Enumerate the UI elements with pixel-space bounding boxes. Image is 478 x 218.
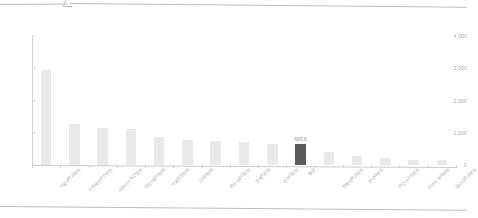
bar[interactable]: [352, 156, 363, 165]
bar[interactable]: [267, 144, 278, 165]
x-axis-category-label: 경희대학교병원: [342, 168, 365, 191]
x-axis-category-label: 울산대학교병원: [455, 168, 478, 191]
x-axis-category-label: 삼성서울대병원: [144, 168, 167, 191]
bar-series: 665.8: [32, 36, 456, 165]
divider-top-main: [70, 3, 467, 8]
x-axis-tick-mark: [456, 165, 457, 168]
bar[interactable]: [380, 158, 391, 165]
bar-chart: 01,0002,0003,0004,000 665.8 서울대학교병원신촌세브란…: [0, 14, 467, 200]
bar[interactable]: [126, 129, 137, 165]
x-axis-label-group: 서울대학교병원신촌세브란스병원서울아산 재단병원삼성서울대병원서울성모병원고려대…: [32, 168, 456, 214]
bar[interactable]: [154, 137, 165, 165]
bar[interactable]: [324, 152, 335, 165]
bar[interactable]: [182, 140, 193, 165]
x-axis-category-label: 서울대학교병원: [59, 168, 82, 191]
divider-top-left: [0, 4, 68, 5]
bar[interactable]: [408, 160, 419, 165]
y-axis-tick-label: 0: [464, 162, 467, 168]
bar-value-label: 665.8: [294, 136, 307, 142]
x-axis-category-label: 인하대 부속병원: [427, 168, 451, 192]
bar[interactable]: [97, 128, 108, 165]
bar[interactable]: [41, 70, 52, 165]
x-axis-category-label: 분당서울대병원: [229, 168, 252, 191]
bar[interactable]: [210, 141, 221, 166]
x-axis-category-label: 한양대구리병원: [398, 168, 421, 191]
x-axis-category-label: 신촌세브란스병원: [89, 168, 114, 193]
x-axis-category-label: 고려대병원: [198, 168, 215, 185]
x-axis-category-label: 연세의료원: [255, 168, 272, 185]
bar[interactable]: [69, 124, 80, 165]
bar-highlighted[interactable]: 665.8: [295, 144, 306, 165]
bar[interactable]: [437, 160, 448, 165]
x-axis-category-label: 서울아산 재단병원: [117, 168, 143, 194]
x-axis-category-label: 아주대병원: [283, 168, 300, 185]
x-axis-category-label: 영남대병원: [368, 168, 385, 185]
bar[interactable]: [239, 142, 250, 165]
x-axis-category-label: 평균: [308, 168, 317, 177]
x-axis-category-label: 서울성모병원: [171, 168, 191, 188]
